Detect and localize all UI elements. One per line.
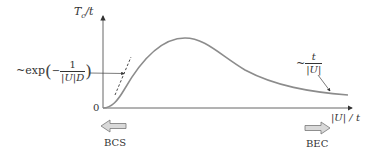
right-paren: ) (85, 61, 92, 81)
y-axis-label-rest: /t (85, 5, 93, 18)
exp-numerator: 1 (68, 60, 76, 71)
exp-prefix: ~exp (16, 64, 45, 77)
exp-denominator: |U|D (60, 71, 85, 83)
bec-decay-annotation: ~t|U| (296, 52, 322, 75)
minus-sign: − (52, 65, 60, 76)
bcs-label: BCS (104, 138, 126, 148)
decay-numerator: t (311, 52, 317, 63)
y-axis-label: Tc/t (74, 6, 93, 20)
bcs-arrow-icon (101, 120, 126, 132)
origin-label: 0 (93, 103, 99, 113)
tilde-prefix: ~ (296, 57, 305, 70)
bec-label: BEC (306, 139, 328, 149)
t-over-u-pointer-arrow (318, 75, 330, 91)
exp-pointer-arrow (89, 73, 124, 74)
left-paren: ( (45, 61, 52, 81)
bcs-bec-crossover-diagram: Tc/t 0 ~exp(−1|U|D) ~t|U| |U| / t BCS BE… (0, 0, 375, 156)
bcs-asymptote-dashed (115, 57, 131, 95)
decay-denominator: |U| (305, 63, 322, 75)
decay-fraction: t|U| (305, 52, 322, 75)
x-axis-label: |U| / t (331, 113, 360, 123)
bec-arrow-icon (305, 122, 330, 134)
exp-fraction: 1|U|D (60, 60, 85, 83)
bcs-exponential-annotation: ~exp(−1|U|D) (16, 60, 92, 83)
